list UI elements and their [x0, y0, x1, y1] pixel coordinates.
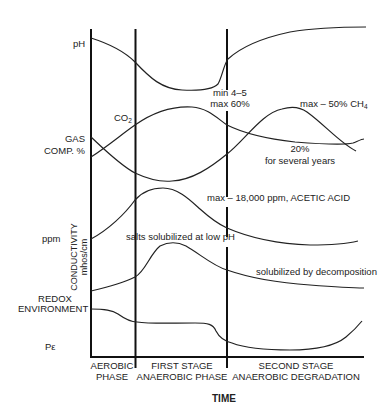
phase-aerobic-line1: AEROBIC [88, 360, 136, 371]
co2-text: CO [114, 112, 128, 123]
phase-first-anaerobic: FIRST STAGE ANAEROBIC PHASE [136, 360, 228, 382]
label-gas-comp: COMP. % [35, 145, 85, 156]
annotation-salts: salts solubilized at low pH [126, 231, 235, 242]
label-conductivity-unit: mhos/cm [79, 222, 89, 292]
co2-subscript: 2 [128, 117, 132, 124]
annotation-ch4-max: max – 50% CH4 [300, 98, 368, 112]
ch4-subscript: 4 [364, 103, 368, 110]
ch4-text: max – 50% CH [300, 98, 364, 109]
annotation-several-years: for several years [250, 155, 350, 166]
phase-second-anaerobic: SECOND STAGE ANAEROBIC DEGRADATION [227, 360, 365, 382]
x-axis-label-time: TIME [212, 393, 236, 404]
phase-first-line1: FIRST STAGE [136, 360, 228, 371]
label-gas: GAS [40, 133, 85, 144]
label-ppm: ppm [42, 233, 60, 244]
annotation-decomposition: solubilized by decomposition [256, 266, 377, 277]
label-conductivity: CONDUCTIVITY mhos/cm [69, 222, 89, 292]
phase-second-line1: SECOND STAGE [227, 360, 365, 371]
annotation-co2-20: 20% [270, 143, 330, 154]
annotation-co2: CO2 [114, 112, 132, 126]
ph-curve [91, 27, 366, 90]
phase-aerobic: AEROBIC PHASE [88, 360, 136, 382]
phase-first-line2: ANAEROBIC PHASE [136, 371, 228, 382]
label-pe: Pε [45, 341, 56, 352]
phase-aerobic-line2: PHASE [88, 371, 136, 382]
phase-second-line2: ANAEROBIC DEGRADATION [227, 371, 365, 382]
annotation-co2-max: max 60% [208, 98, 252, 109]
label-ph: pH [73, 38, 85, 49]
label-conductivity-title: CONDUCTIVITY [69, 222, 79, 292]
annotation-ph-min: min 4–5 [210, 87, 250, 98]
annotation-acetic-acid: max – 18,000 ppm, ACETIC ACID [207, 192, 350, 203]
label-redox-environment: ENVIRONMENT [18, 303, 88, 314]
diagram-canvas [0, 0, 385, 410]
